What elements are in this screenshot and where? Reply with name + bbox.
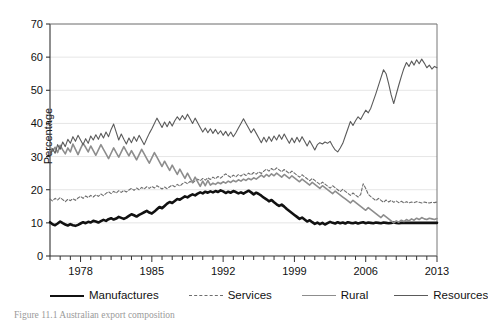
svg-text:20: 20 — [31, 184, 43, 196]
svg-text:30: 30 — [31, 151, 43, 163]
legend-item-rural[interactable]: Rural — [302, 289, 368, 301]
legend-line-icon-services — [189, 290, 223, 300]
legend-item-manufactures[interactable]: Manufactures — [50, 289, 159, 301]
svg-text:40: 40 — [31, 117, 43, 129]
x-axis-ticks: 197819851992199920062013 — [50, 256, 449, 277]
legend-label-resources: Resources — [433, 289, 488, 301]
axis-lines — [50, 24, 437, 256]
chart-legend: Manufactures Services Rural Resources — [50, 286, 450, 304]
svg-text:1992: 1992 — [211, 265, 235, 277]
series-line-manufactures — [50, 190, 437, 225]
svg-text:2013: 2013 — [425, 265, 449, 277]
legend-line-icon-resources — [394, 290, 428, 300]
legend-item-resources[interactable]: Resources — [394, 289, 488, 301]
series-line-services — [50, 168, 437, 203]
svg-text:1999: 1999 — [282, 265, 306, 277]
y-axis-ticks: 010203040506070 — [31, 18, 50, 262]
svg-text:1978: 1978 — [68, 265, 92, 277]
legend-line-icon-rural — [302, 290, 336, 300]
legend-line-icon-manufactures — [50, 290, 84, 300]
svg-text:50: 50 — [31, 84, 43, 96]
legend-label-rural: Rural — [341, 289, 368, 301]
svg-text:10: 10 — [31, 217, 43, 229]
legend-label-services: Services — [228, 289, 272, 301]
series-line-rural — [50, 143, 437, 223]
svg-text:2006: 2006 — [353, 265, 377, 277]
data-series-group — [50, 59, 437, 226]
svg-text:60: 60 — [31, 51, 43, 63]
svg-text:70: 70 — [31, 18, 43, 30]
legend-label-manufactures: Manufactures — [89, 289, 159, 301]
svg-text:1985: 1985 — [140, 265, 164, 277]
svg-text:0: 0 — [37, 250, 43, 262]
series-line-resources — [50, 59, 437, 156]
legend-item-services[interactable]: Services — [189, 289, 272, 301]
figure-caption: Figure 11.1 Australian export compositio… — [14, 310, 175, 320]
